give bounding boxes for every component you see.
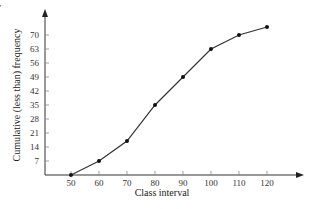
corner-fragment: , (0, 0, 1, 8)
data-point (125, 139, 129, 143)
x-tick-label: 120 (260, 178, 274, 188)
y-tick-label: 42 (30, 86, 39, 96)
y-axis-arrow-icon (42, 9, 48, 17)
data-point (209, 47, 213, 51)
data-point (97, 159, 101, 163)
y-axis-title: Cumulative (less than) frequency (11, 28, 23, 161)
y-tick-label: 70 (30, 30, 40, 40)
ogive-chart: , 7142128354249566370 506070809010011012… (0, 0, 313, 209)
x-tick-label: 60 (95, 178, 105, 188)
y-tick-label: 7 (35, 156, 40, 166)
x-tick-label: 70 (123, 178, 133, 188)
x-axis-arrow-icon (296, 172, 304, 178)
y-tick-label: 21 (30, 128, 39, 138)
data-point (265, 25, 269, 29)
x-ticks: 5060708090100110120 (67, 171, 275, 188)
x-axis-title: Class interval (135, 187, 190, 198)
data-point-markers (69, 25, 269, 177)
data-point (69, 173, 73, 177)
y-tick-label: 56 (30, 58, 40, 68)
data-point (237, 33, 241, 37)
y-tick-label: 28 (30, 114, 40, 124)
y-tick-label: 63 (30, 44, 40, 54)
y-tick-label: 35 (30, 100, 40, 110)
y-tick-label: 14 (30, 142, 40, 152)
x-tick-label: 50 (67, 178, 77, 188)
y-ticks: 7142128354249566370 (30, 30, 49, 166)
cumulative-frequency-line (71, 27, 267, 175)
data-point (153, 103, 157, 107)
y-tick-label: 49 (30, 72, 40, 82)
data-point (181, 75, 185, 79)
x-tick-label: 110 (232, 178, 246, 188)
x-tick-label: 100 (204, 178, 218, 188)
